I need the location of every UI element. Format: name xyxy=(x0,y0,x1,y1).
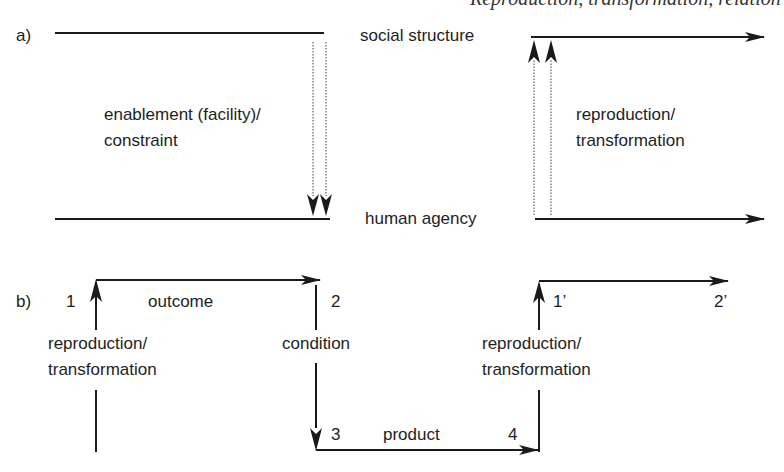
reproduction-label-b-right: reproduction/ xyxy=(482,334,581,354)
point-1: 1 xyxy=(66,292,75,312)
diagram-canvas xyxy=(0,0,784,472)
point-3: 3 xyxy=(331,425,340,445)
reproduction-arrowhead-1 xyxy=(528,40,540,63)
social-structure-label: social structure xyxy=(360,26,474,46)
point-4: 4 xyxy=(508,425,517,445)
transformation-label-a: transformation xyxy=(576,131,685,151)
outcome-label: outcome xyxy=(148,292,213,312)
human-agency-label: human agency xyxy=(365,209,477,229)
constraint-label: constraint xyxy=(104,131,178,151)
panel-a-lines xyxy=(55,33,764,219)
transformation-label-b-right: transformation xyxy=(482,360,591,380)
reproduction-label-b-left: reproduction/ xyxy=(48,334,147,354)
panel-a-label: a) xyxy=(16,26,31,46)
point-1-prime: 1’ xyxy=(553,292,566,312)
constraint-arrowhead-2 xyxy=(320,194,332,216)
product-label: product xyxy=(383,425,440,445)
point-2: 2 xyxy=(331,292,340,312)
enablement-label: enablement (facility)/ xyxy=(104,105,261,125)
point-2-prime: 2’ xyxy=(714,292,727,312)
constraint-arrowhead-1 xyxy=(307,194,319,216)
panel-b-label: b) xyxy=(16,292,31,312)
reproduction-label-a: reproduction/ xyxy=(576,105,675,125)
condition-label: condition xyxy=(282,334,350,354)
reproduction-arrowhead-2 xyxy=(545,40,557,63)
transformation-label-b-left: transformation xyxy=(48,360,157,380)
condition-arrowhead xyxy=(310,428,322,451)
